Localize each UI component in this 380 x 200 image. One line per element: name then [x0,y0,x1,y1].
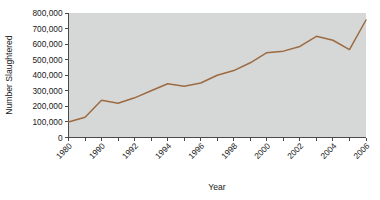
y-axis-tick-labels: 0100,000200,000300,000400,000500,000600,… [33,8,63,143]
y-axis-tick-label: 700,000 [33,24,63,34]
y-axis-tick-label: 500,000 [33,55,63,65]
line-chart: 0100,000200,000300,000400,000500,000600,… [0,0,380,200]
y-axis-tick-label: 0 [58,133,63,143]
y-axis-tick-label: 800,000 [33,8,63,18]
y-axis-tick-label: 400,000 [33,70,63,80]
y-axis-tick-label: 600,000 [33,39,63,49]
x-axis-title: Year [208,182,226,192]
y-axis-tick-label: 200,000 [33,101,63,111]
chart-canvas: 0100,000200,000300,000400,000500,000600,… [0,0,380,200]
y-axis-tick-label: 100,000 [33,117,63,127]
y-axis-title: Number Slaughtered [4,35,14,115]
y-axis-tick-label: 300,000 [33,86,63,96]
